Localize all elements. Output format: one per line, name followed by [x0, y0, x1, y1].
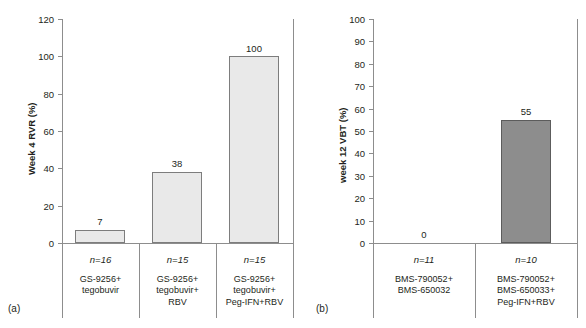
- panel-b-category-2-name: BMS-790052+ BMS-650033+ Peg-IFN+RBV: [475, 274, 577, 309]
- panel-b-plot-right-edge: [577, 19, 578, 243]
- panel-b-label: (b): [316, 303, 328, 314]
- panel-b-ytick-90: 90: [339, 37, 365, 47]
- panel-a-category-3-line-3: Peg-IFN+RBV: [216, 297, 293, 309]
- panel-b-ytick-60: 60: [339, 105, 365, 115]
- panel-b-ytick-0: 0: [339, 239, 365, 249]
- panel-a-category-3: n=15 GS-9256+ tegobuvir+ Peg-IFN+RBV: [216, 255, 293, 308]
- panel-a-ytick-40: 40: [28, 164, 54, 174]
- panel-b: week 12 VBT (%) 100 90 80 70 60 50 40 30…: [296, 0, 586, 328]
- panel-a-category-2: n=15 GS-9256+ tegobuvir+ RBV: [139, 255, 216, 308]
- panel-a-category-3-line-1: GS-9256+: [216, 274, 293, 286]
- panel-a-category-divider-3: [293, 243, 294, 318]
- panel-b-category-1-name: BMS-790052+ BMS-650032: [373, 274, 475, 297]
- panel-a-label: (a): [8, 303, 20, 314]
- panel-b-ytick-10: 10: [339, 217, 365, 227]
- panel-b-ytick-70: 70: [339, 82, 365, 92]
- panel-b-category-1-line-2: BMS-650032: [373, 285, 475, 297]
- panel-a-category-2-name: GS-9256+ tegobuvir+ RBV: [139, 274, 216, 309]
- panel-a-category-2-line-2: tegobuvir+: [139, 285, 216, 297]
- panel-a-category-1-name: GS-9256+ tegobuvir: [62, 274, 139, 297]
- panel-a-category-2-line-1: GS-9256+: [139, 274, 216, 286]
- panel-a-x-axis: [62, 243, 294, 244]
- panel-a-bar-1: [75, 230, 125, 243]
- panel-a-y-axis: [62, 19, 63, 243]
- panel-b-ytick-100: 100: [339, 15, 365, 25]
- panel-a: Week 4 RVR (%) 120 100 80 60 40 20 0 7 3…: [0, 0, 296, 328]
- panel-b-ytick-20: 20: [339, 194, 365, 204]
- panel-b-ytick-50: 50: [339, 127, 365, 137]
- panel-b-ytick-30: 30: [339, 172, 365, 182]
- panel-b-category-2-line-3: Peg-IFN+RBV: [475, 297, 577, 309]
- panel-a-category-2-n: n=15: [139, 255, 216, 265]
- panel-a-bar-2-value: 38: [152, 159, 202, 169]
- panel-a-ytick-100: 100: [28, 52, 54, 62]
- panel-a-category-3-n-text: n=15: [244, 254, 265, 265]
- figure-root: Week 4 RVR (%) 120 100 80 60 40 20 0 7 3…: [0, 0, 586, 328]
- panel-a-category-1-line-2: tegobuvir: [62, 285, 139, 297]
- panel-b-category-2: n=10 BMS-790052+ BMS-650033+ Peg-IFN+RBV: [475, 255, 577, 308]
- panel-b-category-2-line-2: BMS-650033+: [475, 285, 577, 297]
- panel-a-category-3-line-2: tegobuvir+: [216, 285, 293, 297]
- panel-a-category-3-n: n=15: [216, 255, 293, 265]
- panel-a-plot-right-edge: [293, 19, 294, 243]
- panel-a-category-1-line-1: GS-9256+: [62, 274, 139, 286]
- panel-a-ytick-80: 80: [28, 90, 54, 100]
- panel-b-bar-2: [501, 120, 551, 243]
- panel-b-category-1-line-1: BMS-790052+: [373, 274, 475, 286]
- panel-a-ytick-120: 120: [28, 15, 54, 25]
- panel-b-category-1: n=11 BMS-790052+ BMS-650032: [373, 255, 475, 297]
- panel-b-bar-2-value: 55: [501, 107, 551, 117]
- panel-b-category-2-n-text: n=10: [515, 254, 536, 265]
- panel-b-category-2-line-1: BMS-790052+: [475, 274, 577, 286]
- panel-a-bar-2: [152, 172, 202, 243]
- panel-b-category-divider-2: [577, 243, 578, 318]
- panel-a-bar-1-value: 7: [75, 217, 125, 227]
- panel-a-bar-3: [229, 56, 279, 243]
- panel-b-bar-1-value: 0: [399, 230, 449, 240]
- panel-a-ytick-0: 0: [28, 239, 54, 249]
- panel-a-category-2-n-text: n=15: [167, 254, 188, 265]
- panel-b-ytick-80: 80: [339, 60, 365, 70]
- panel-a-category-3-name: GS-9256+ tegobuvir+ Peg-IFN+RBV: [216, 274, 293, 309]
- panel-b-category-1-n: n=11: [373, 255, 475, 265]
- panel-a-ytick-20: 20: [28, 202, 54, 212]
- panel-a-category-1: n=16 GS-9256+ tegobuvir: [62, 255, 139, 297]
- panel-a-bar-3-value: 100: [229, 44, 279, 54]
- panel-b-y-axis: [373, 19, 374, 243]
- panel-a-category-2-line-3: RBV: [139, 297, 216, 309]
- panel-a-category-1-n-text: n=16: [90, 254, 111, 265]
- panel-b-category-2-n: n=10: [475, 255, 577, 265]
- panel-a-category-1-n: n=16: [62, 255, 139, 265]
- panel-a-ytick-60: 60: [28, 127, 54, 137]
- panel-b-ytick-40: 40: [339, 149, 365, 159]
- panel-b-category-1-n-text: n=11: [414, 254, 435, 265]
